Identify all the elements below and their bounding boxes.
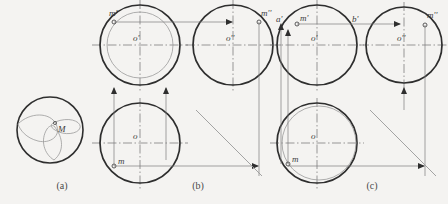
panel-c-projection: m' a' b' o' m'' o'' m o (270, 0, 448, 190)
c-top-view: m o (270, 98, 364, 190)
point-m-label: M (57, 124, 66, 134)
c-projection-lines (281, 24, 436, 176)
c-front-view: m' a' b' o' (270, 0, 364, 93)
caption-b: (b) (178, 180, 218, 191)
b-front-view: m' o' (92, 0, 188, 93)
c-front-point-a-label: a' (276, 14, 284, 24)
c-profile-center-label: o'' (397, 33, 406, 43)
b-profile-view: m'' o'' (186, 0, 281, 93)
equator-arc (18, 115, 58, 142)
panel-b-projection: m' o' m'' o'' m o (92, 0, 281, 190)
c-front-center-label: o' (311, 33, 319, 43)
b-front-center-label: o' (133, 33, 141, 43)
caption-c: (c) (352, 180, 392, 191)
c-profile-point-m-label: m'' (427, 10, 438, 20)
caption-a: (a) (42, 180, 82, 191)
c-top-point-m-label: m (292, 154, 299, 164)
b-top-point-m-label: m (118, 156, 125, 166)
b-profile-center-label: o'' (226, 33, 235, 43)
c-top-center-label: o (311, 131, 316, 141)
b-profile-point-m-label: m'' (261, 8, 272, 18)
b-top-center-label: o (133, 131, 138, 141)
descriptive-geometry-figure: M m' o' m'' o'' m o (0, 0, 448, 204)
sphere-outline (17, 97, 83, 163)
b-front-point-m-label: m' (109, 8, 118, 18)
c-profile-view: m'' o'' (360, 2, 448, 91)
panel-a-pictorial: M (17, 97, 83, 163)
c-front-point-m-label: m' (300, 13, 309, 23)
c-front-point-b-label: b' (352, 14, 360, 24)
b-top-view: m o (92, 98, 188, 190)
